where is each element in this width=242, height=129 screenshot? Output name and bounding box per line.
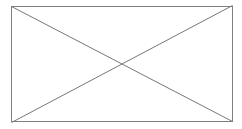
image-placeholder [0,0,242,129]
placeholder-graphic [0,0,242,129]
